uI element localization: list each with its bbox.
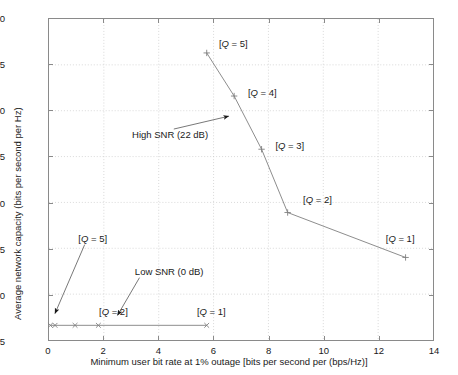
y-tick-label: 30 xyxy=(0,105,5,116)
x-tick-mark xyxy=(379,18,380,23)
x-tick-mark xyxy=(213,18,214,23)
plot-area xyxy=(48,18,434,341)
y-tick-mark xyxy=(429,203,434,204)
x-tick-label: 12 xyxy=(374,345,385,356)
y-tick-mark xyxy=(48,295,53,296)
x-tick-label: 10 xyxy=(318,345,329,356)
q3-high-label: [Q = 3] xyxy=(275,140,304,151)
q5-low-label: [Q = 5] xyxy=(78,233,107,244)
y-tick-mark xyxy=(429,110,434,111)
x-tick-mark xyxy=(269,336,270,341)
x-axis-title: Minimum user bit rate at 1% outage [bits… xyxy=(0,356,458,367)
x-tick-mark xyxy=(269,18,270,23)
x-tick-label: 6 xyxy=(211,345,216,356)
x-tick-label: 4 xyxy=(156,345,161,356)
q4-high-label: [Q = 4] xyxy=(248,87,277,98)
y-tick-mark xyxy=(48,203,53,204)
q1-low-label: [Q = 1] xyxy=(197,306,226,317)
y-tick-mark xyxy=(429,64,434,65)
y-tick-label: 10 xyxy=(0,289,5,300)
y-tick-label: 15 xyxy=(0,243,5,254)
x-tick-mark xyxy=(379,336,380,341)
x-tick-label: 0 xyxy=(45,345,50,356)
x-tick-mark xyxy=(213,336,214,341)
y-tick-label: 35 xyxy=(0,59,5,70)
q5-high-label: [Q = 5] xyxy=(219,38,248,49)
y-tick-label: 5 xyxy=(0,336,5,347)
x-tick-label: 8 xyxy=(266,345,271,356)
y-tick-mark xyxy=(48,110,53,111)
y-tick-label: 25 xyxy=(0,151,5,162)
x-tick-mark xyxy=(103,336,104,341)
high-snr-annotation: High SNR (22 dB) xyxy=(132,129,208,140)
x-tick-mark xyxy=(324,18,325,23)
y-tick-mark xyxy=(429,249,434,250)
x-tick-mark xyxy=(158,18,159,23)
annotation-arrow-layer xyxy=(49,19,433,340)
x-tick-label: 2 xyxy=(100,345,105,356)
y-tick-mark xyxy=(48,64,53,65)
x-tick-label: 14 xyxy=(429,345,440,356)
high-snr-arrow xyxy=(174,116,229,129)
y-tick-mark xyxy=(48,156,53,157)
q1-high-label: [Q = 1] xyxy=(386,233,415,244)
y-tick-mark xyxy=(429,295,434,296)
low-snr-annotation: Low SNR (0 dB) xyxy=(135,266,204,277)
q2-low-label: [Q = 2] xyxy=(99,306,128,317)
q2-high-label: [Q = 2] xyxy=(303,194,332,205)
figure-canvas: 51015202530354002468101214 High SNR (22 … xyxy=(0,0,458,375)
x-tick-mark xyxy=(324,336,325,341)
x-tick-mark xyxy=(158,336,159,341)
y-tick-mark xyxy=(48,249,53,250)
y-tick-mark xyxy=(429,156,434,157)
x-tick-mark xyxy=(103,18,104,23)
q5-low-arrow xyxy=(55,245,85,314)
y-tick-label: 40 xyxy=(0,13,5,24)
y-axis-title: Average network capacity (bits per secon… xyxy=(12,107,23,320)
y-tick-label: 20 xyxy=(0,197,5,208)
